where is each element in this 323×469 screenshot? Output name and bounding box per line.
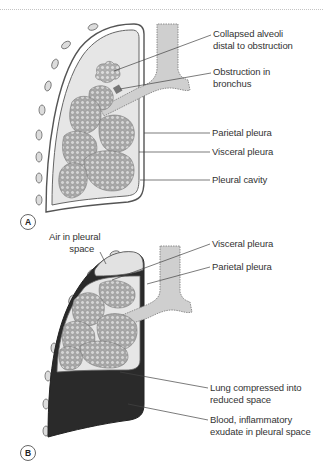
label-visceral-pleura-b: Visceral pleura [212,238,273,250]
label-visceral-pleura-a: Visceral pleura [212,146,273,158]
label-air-in-pleural-space: Air in pleural space [49,231,100,255]
label-obstruction-in-bronchus: Obstruction in bronchus [213,66,270,90]
panel-b-lung [43,246,192,437]
label-blood-inflammatory-exudate: Blood, inflammatory exudate in pleural s… [210,414,311,438]
label-parietal-pleura-a: Parietal pleura [212,127,272,139]
label-parietal-pleura-b: Parietal pleura [212,261,272,273]
label-pleural-cavity: Pleural cavity [212,174,267,186]
panel-a-badge: A [20,214,36,230]
label-lung-compressed: Lung compressed into reduced space [210,382,301,406]
label-collapsed-alveoli: Collapsed alveoli distal to obstruction [213,28,293,52]
panel-b-badge: B [20,445,36,461]
panel-a-lung [36,22,190,212]
